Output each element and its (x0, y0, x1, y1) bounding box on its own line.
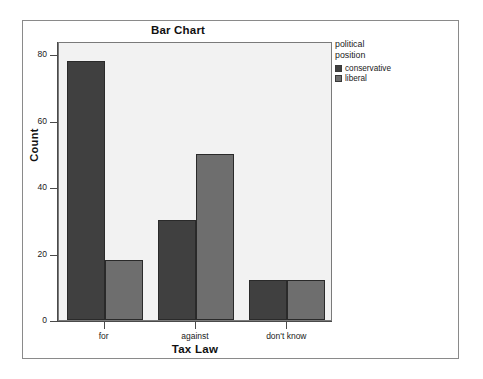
bar-conservative-don-t-know (249, 280, 287, 320)
y-tick-label: 0 (42, 315, 47, 325)
legend-title: political position (335, 39, 455, 60)
plot-area (58, 42, 332, 321)
x-tick-label: against (181, 331, 208, 341)
legend-item-liberal: liberal (335, 74, 455, 83)
chart-frame: Bar Chart 020406080 Count foragainstdon'… (22, 20, 459, 359)
y-axis-title: Count (28, 110, 40, 180)
x-tick (195, 321, 196, 329)
legend-item-label: conservative (345, 64, 391, 73)
bars-container (59, 43, 331, 320)
legend: political position conservativeliberal (335, 39, 455, 84)
y-axis-line (57, 42, 58, 322)
legend-entries: conservativeliberal (335, 64, 455, 83)
y-tick: 80 (50, 55, 57, 56)
y-tick: 20 (50, 255, 57, 256)
legend-item-conservative: conservative (335, 64, 455, 73)
y-tick-label: 40 (38, 182, 47, 192)
legend-swatch-icon (335, 75, 342, 82)
bar-liberal-for (105, 260, 143, 320)
bar-liberal-don-t-know (287, 280, 325, 320)
x-tick (104, 321, 105, 329)
y-tick-label: 80 (38, 49, 47, 59)
x-tick (286, 321, 287, 329)
x-axis-title: Tax Law (58, 343, 332, 355)
legend-item-label: liberal (345, 74, 367, 83)
x-tick-label: for (99, 331, 109, 341)
legend-swatch-icon (335, 65, 342, 72)
y-tick: 60 (50, 122, 57, 123)
bar-conservative-against (158, 220, 196, 320)
chart-title: Bar Chart (23, 24, 333, 36)
y-tick: 0 (50, 321, 57, 322)
bar-liberal-against (196, 154, 234, 320)
x-tick-label: don't know (266, 331, 306, 341)
bar-conservative-for (67, 61, 105, 320)
y-tick-label: 20 (38, 249, 47, 259)
y-tick: 40 (50, 188, 57, 189)
